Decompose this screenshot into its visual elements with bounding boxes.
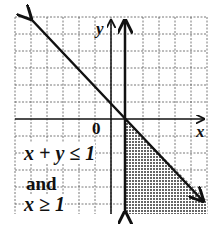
y-axis-label: y	[96, 20, 104, 37]
origin-label: 0	[92, 120, 101, 137]
conjunction-label: and	[26, 174, 57, 193]
inequality-1: x + y ≤ 1	[24, 143, 95, 163]
inequality-1-text: x + y ≤ 1	[24, 142, 95, 164]
x-axis-label: x	[196, 123, 205, 140]
inequality-2: x ≥ 1	[24, 194, 65, 214]
